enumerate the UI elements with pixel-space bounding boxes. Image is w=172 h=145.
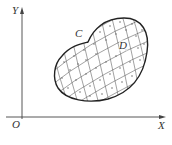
y-axis [20,7,24,119]
origin-label: O [12,119,20,130]
region-diagram [0,0,172,145]
x-axis-label: X [158,120,165,131]
region-grid [35,0,160,122]
y-axis-arrow-icon [20,7,24,14]
boundary-label-c: C [75,28,82,39]
region-label-d: D [119,40,127,51]
x-axis [6,115,166,119]
y-axis-label: Y [12,5,18,16]
